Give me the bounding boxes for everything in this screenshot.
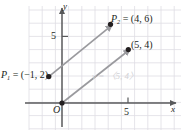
label-point-p1: P1 = (−1, 2) xyxy=(1,70,48,81)
axis-lines xyxy=(25,8,176,127)
coordinate-plane-svg xyxy=(0,0,181,130)
label-origin: O xyxy=(53,105,60,115)
label-point-p2: P2 = (4, 6) xyxy=(111,14,153,25)
grid-lines xyxy=(29,6,181,130)
label-p2-value: = (4, 6) xyxy=(120,13,152,24)
label-vector-v: v = 〈5, 4〉 xyxy=(92,72,138,81)
label-x-tick-5: 5 xyxy=(124,107,129,117)
vector-p1-p2 xyxy=(49,25,113,77)
vector-diagram: P1 = (−1, 2) P2 = (4, 6) (5, 4) v = 〈5, … xyxy=(0,0,181,130)
label-x-axis: x xyxy=(171,105,175,114)
label-point-5-4: (5, 4) xyxy=(131,40,153,50)
plot-points xyxy=(46,22,131,106)
label-p1-value: = (−1, 2) xyxy=(10,69,48,80)
label-y-tick-5: 5 xyxy=(51,31,56,41)
label-y-axis: y xyxy=(63,2,67,11)
